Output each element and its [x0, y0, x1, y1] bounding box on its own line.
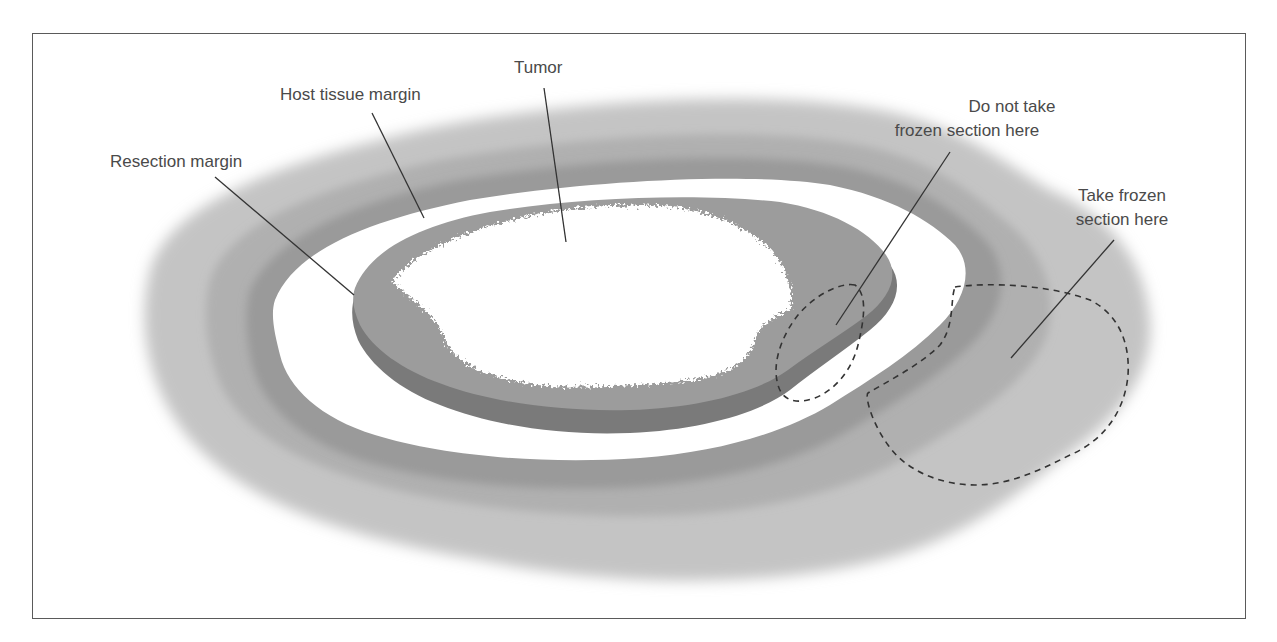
tumor-margin-diagram: Resection margin Host tissue margin Tumo… [0, 0, 1277, 642]
label-tumor: Tumor [514, 58, 563, 77]
label-take-2: section here [1076, 210, 1169, 229]
label-host-tissue-margin: Host tissue margin [280, 85, 421, 104]
label-do-not-take-2: frozen section here [895, 121, 1040, 140]
label-do-not-take-1: Do not take [969, 97, 1056, 116]
label-resection-margin: Resection margin [110, 152, 242, 171]
label-take-1: Take frozen [1078, 186, 1166, 205]
